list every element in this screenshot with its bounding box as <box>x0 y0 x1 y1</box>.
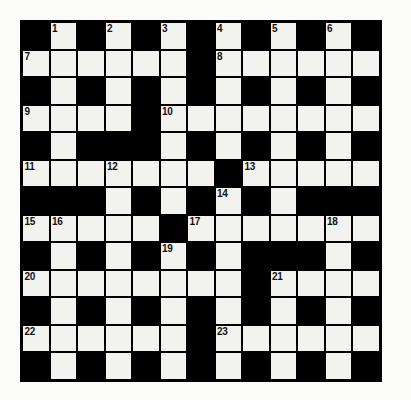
grid-open-cell[interactable]: 1 <box>50 22 78 50</box>
grid-open-cell[interactable] <box>352 270 380 298</box>
grid-open-cell[interactable] <box>50 50 78 78</box>
grid-open-cell[interactable] <box>160 77 188 105</box>
grid-open-cell[interactable] <box>215 242 243 270</box>
grid-open-cell[interactable]: 2 <box>105 22 133 50</box>
grid-open-cell[interactable]: 9 <box>22 105 50 133</box>
grid-open-cell[interactable]: 11 <box>22 160 50 188</box>
grid-open-cell[interactable] <box>325 270 353 298</box>
grid-open-cell[interactable]: 18 <box>325 215 353 243</box>
grid-open-cell[interactable]: 14 <box>215 187 243 215</box>
grid-open-cell[interactable] <box>270 77 298 105</box>
grid-open-cell[interactable] <box>242 50 270 78</box>
grid-open-cell[interactable] <box>242 105 270 133</box>
grid-open-cell[interactable] <box>297 325 325 353</box>
grid-open-cell[interactable]: 7 <box>22 50 50 78</box>
grid-open-cell[interactable]: 19 <box>160 242 188 270</box>
grid-open-cell[interactable]: 3 <box>160 22 188 50</box>
grid-open-cell[interactable] <box>215 352 243 380</box>
grid-open-cell[interactable] <box>325 132 353 160</box>
grid-open-cell[interactable] <box>105 50 133 78</box>
grid-open-cell[interactable]: 13 <box>242 160 270 188</box>
grid-open-cell[interactable] <box>325 160 353 188</box>
grid-open-cell[interactable] <box>160 50 188 78</box>
grid-open-cell[interactable]: 12 <box>105 160 133 188</box>
grid-open-cell[interactable] <box>352 50 380 78</box>
grid-open-cell[interactable]: 17 <box>187 215 215 243</box>
grid-open-cell[interactable] <box>50 270 78 298</box>
grid-open-cell[interactable] <box>352 325 380 353</box>
grid-open-cell[interactable] <box>270 297 298 325</box>
grid-open-cell[interactable] <box>132 325 160 353</box>
grid-open-cell[interactable]: 15 <box>22 215 50 243</box>
grid-open-cell[interactable] <box>270 325 298 353</box>
grid-open-cell[interactable] <box>325 352 353 380</box>
grid-open-cell[interactable] <box>105 242 133 270</box>
grid-open-cell[interactable] <box>132 215 160 243</box>
grid-open-cell[interactable] <box>325 105 353 133</box>
grid-open-cell[interactable]: 5 <box>270 22 298 50</box>
grid-open-cell[interactable] <box>77 105 105 133</box>
grid-open-cell[interactable] <box>160 160 188 188</box>
grid-open-cell[interactable] <box>50 352 78 380</box>
grid-open-cell[interactable] <box>270 50 298 78</box>
grid-open-cell[interactable] <box>270 160 298 188</box>
grid-open-cell[interactable] <box>297 215 325 243</box>
grid-open-cell[interactable]: 8 <box>215 50 243 78</box>
grid-open-cell[interactable] <box>77 215 105 243</box>
grid-open-cell[interactable] <box>325 325 353 353</box>
grid-open-cell[interactable] <box>270 187 298 215</box>
grid-open-cell[interactable] <box>187 160 215 188</box>
grid-open-cell[interactable] <box>160 297 188 325</box>
grid-open-cell[interactable] <box>352 160 380 188</box>
grid-open-cell[interactable] <box>215 297 243 325</box>
grid-open-cell[interactable] <box>77 270 105 298</box>
grid-open-cell[interactable] <box>105 325 133 353</box>
grid-open-cell[interactable] <box>270 352 298 380</box>
grid-open-cell[interactable] <box>215 132 243 160</box>
grid-open-cell[interactable] <box>50 77 78 105</box>
grid-open-cell[interactable] <box>105 105 133 133</box>
grid-open-cell[interactable] <box>325 242 353 270</box>
grid-open-cell[interactable] <box>160 132 188 160</box>
grid-open-cell[interactable] <box>325 297 353 325</box>
grid-open-cell[interactable]: 4 <box>215 22 243 50</box>
grid-open-cell[interactable] <box>160 187 188 215</box>
grid-open-cell[interactable] <box>105 77 133 105</box>
grid-open-cell[interactable] <box>297 50 325 78</box>
grid-open-cell[interactable] <box>187 270 215 298</box>
grid-open-cell[interactable] <box>160 325 188 353</box>
grid-open-cell[interactable] <box>325 77 353 105</box>
grid-open-cell[interactable] <box>215 270 243 298</box>
grid-open-cell[interactable] <box>325 50 353 78</box>
grid-open-cell[interactable] <box>215 105 243 133</box>
grid-open-cell[interactable] <box>215 215 243 243</box>
grid-open-cell[interactable] <box>187 105 215 133</box>
grid-open-cell[interactable] <box>50 132 78 160</box>
grid-open-cell[interactable] <box>297 270 325 298</box>
grid-open-cell[interactable] <box>105 187 133 215</box>
grid-open-cell[interactable]: 16 <box>50 215 78 243</box>
grid-open-cell[interactable] <box>50 105 78 133</box>
grid-open-cell[interactable] <box>242 215 270 243</box>
grid-open-cell[interactable] <box>77 160 105 188</box>
grid-open-cell[interactable] <box>105 297 133 325</box>
grid-open-cell[interactable] <box>160 270 188 298</box>
grid-open-cell[interactable]: 10 <box>160 105 188 133</box>
grid-open-cell[interactable]: 20 <box>22 270 50 298</box>
grid-open-cell[interactable] <box>270 132 298 160</box>
grid-open-cell[interactable] <box>242 325 270 353</box>
crossword-grid[interactable]: 1234567891011121314151617181920212223 <box>22 22 380 380</box>
grid-open-cell[interactable] <box>132 270 160 298</box>
grid-open-cell[interactable] <box>352 215 380 243</box>
grid-open-cell[interactable] <box>77 50 105 78</box>
grid-open-cell[interactable] <box>132 160 160 188</box>
grid-open-cell[interactable]: 6 <box>325 22 353 50</box>
grid-open-cell[interactable] <box>297 105 325 133</box>
grid-open-cell[interactable] <box>297 160 325 188</box>
grid-open-cell[interactable] <box>50 297 78 325</box>
grid-open-cell[interactable] <box>50 325 78 353</box>
grid-open-cell[interactable]: 22 <box>22 325 50 353</box>
grid-open-cell[interactable] <box>105 352 133 380</box>
grid-open-cell[interactable] <box>77 325 105 353</box>
grid-open-cell[interactable] <box>50 242 78 270</box>
